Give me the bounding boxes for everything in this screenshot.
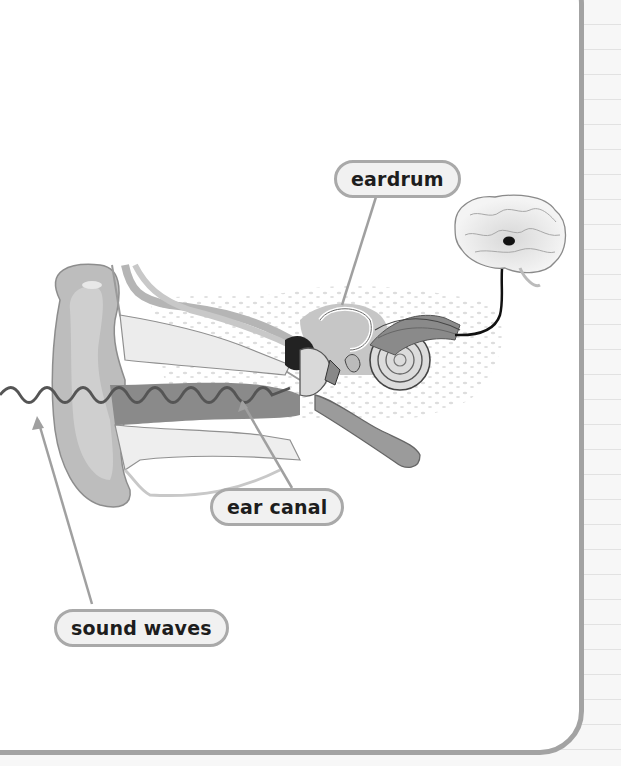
auditory-cortex-spot xyxy=(503,237,515,246)
brain xyxy=(455,195,566,285)
label-ear-canal: ear canal xyxy=(210,488,344,526)
sound-waves-arrowhead xyxy=(32,416,44,430)
label-eardrum: eardrum xyxy=(334,160,461,198)
label-sound-waves: sound waves xyxy=(54,609,229,647)
ear-anatomy-illustration xyxy=(0,0,621,766)
